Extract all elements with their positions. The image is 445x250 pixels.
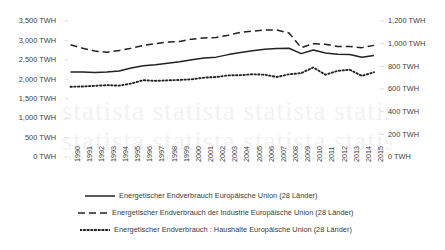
legend-line-swatch	[80, 225, 110, 235]
chart-legend: Energetischer Endverbrauch Europäische U…	[0, 187, 445, 238]
series-line-2	[71, 30, 375, 52]
series-line-3	[71, 67, 375, 86]
chart-container: statista statista statista statista stat…	[0, 0, 445, 250]
legend-item-label: Energetischer Endverbrauch : Haushalte E…	[110, 225, 352, 234]
legend-line-swatch	[85, 191, 115, 201]
legend-line-swatch	[78, 208, 108, 218]
legend-item-label: Energetischer Endverbrauch der Industrie…	[108, 208, 354, 217]
legend-item[interactable]: Energetischer Endverbrauch Europäische U…	[0, 187, 445, 204]
legend-item-label: Energetischer Endverbrauch Europäische U…	[115, 191, 317, 200]
series-line-1	[71, 48, 375, 72]
legend-item[interactable]: Energetischer Endverbrauch der Industrie…	[0, 204, 445, 221]
legend-item[interactable]: Energetischer Endverbrauch : Haushalte E…	[0, 221, 445, 238]
